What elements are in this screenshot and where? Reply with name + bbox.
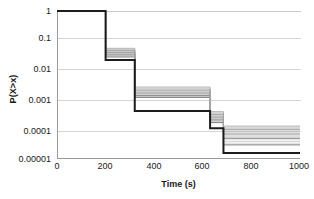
data-trace: [57, 11, 300, 143]
traces-svg: [0, 0, 314, 199]
data-trace: [57, 11, 300, 137]
data-trace: [57, 11, 300, 138]
chart-root: P(X>x) 1 0.1 0.01 0.001 0.0001 0.00001 0…: [0, 0, 314, 199]
data-trace: [57, 11, 300, 134]
data-trace: [57, 11, 300, 142]
data-traces-layer: [0, 0, 314, 199]
data-trace: [57, 11, 300, 136]
data-trace: [57, 11, 300, 140]
data-trace: [57, 11, 300, 133]
data-trace: [57, 11, 300, 145]
data-trace: [57, 11, 300, 135]
data-trace: [57, 11, 300, 131]
data-trace: [57, 11, 300, 127]
data-trace: [57, 11, 300, 132]
data-trace: [57, 11, 300, 126]
